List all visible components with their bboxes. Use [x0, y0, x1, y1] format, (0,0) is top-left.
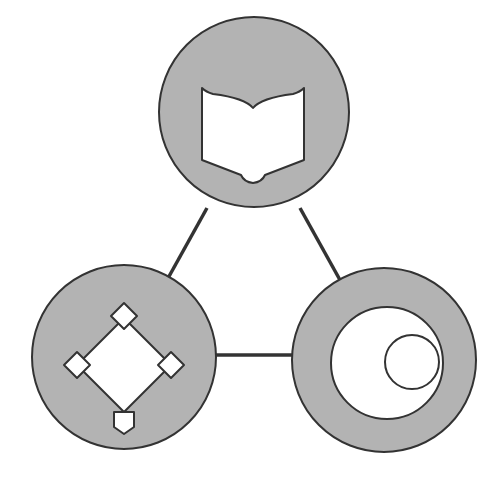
edge-top-bottom-left — [167, 208, 207, 280]
node-bottom-left — [32, 265, 216, 449]
node-top — [159, 17, 349, 207]
edge-top-bottom-right — [300, 208, 340, 280]
diagram: Reading Baseball Circles — [0, 0, 501, 495]
diagram-canvas — [0, 0, 501, 495]
concentric-circles-icon — [331, 307, 443, 419]
node-bottom-right — [292, 268, 476, 452]
